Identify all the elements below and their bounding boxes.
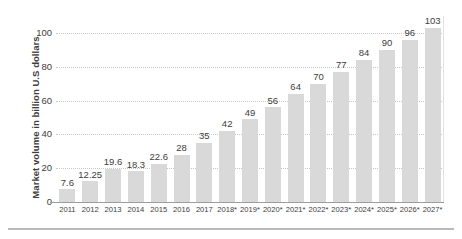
bar[interactable]: 64	[288, 94, 304, 202]
x-axis-label: 2022*	[307, 205, 330, 215]
bar-slot: 77	[330, 16, 353, 202]
x-axis-label: 2017	[193, 205, 216, 215]
bar-value-label: 19.6	[104, 157, 123, 167]
bar-slot: 28	[170, 16, 193, 202]
x-axis-label: 2012	[79, 205, 102, 215]
bar-value-label: 42	[222, 119, 233, 129]
bar-slot: 12.25	[79, 16, 102, 202]
bar[interactable]: 96	[402, 40, 418, 202]
bar-value-label: 18.3	[127, 160, 146, 170]
bar-slot: 7.6	[56, 16, 79, 202]
bar-slot: 64	[284, 16, 307, 202]
x-axis-label: 2019*	[239, 205, 262, 215]
x-axis-label: 2020*	[261, 205, 284, 215]
bar-value-label: 77	[336, 60, 347, 70]
bar-value-label: 64	[290, 82, 301, 92]
x-axis-label: 2027*	[421, 205, 444, 215]
x-axis-label: 2016	[170, 205, 193, 215]
y-axis-tick-0: 0	[18, 197, 52, 207]
bar-slot: 56	[261, 16, 284, 202]
bar-value-label: 35	[199, 131, 210, 141]
bar-value-label: 7.6	[61, 178, 74, 188]
bar-value-label: 103	[425, 16, 441, 26]
bar-slot: 84	[353, 16, 376, 202]
bar-slot: 103	[421, 16, 444, 202]
bar[interactable]: 70	[310, 84, 326, 202]
bar-slot: 49	[239, 16, 262, 202]
bar-value-label: 70	[313, 72, 324, 82]
bar-slot: 22.6	[147, 16, 170, 202]
y-axis-tick-60: 60	[18, 96, 52, 106]
bar-value-label: 84	[359, 48, 370, 58]
bar-value-label: 56	[268, 96, 279, 106]
bar[interactable]: 56	[265, 107, 281, 202]
footer-divider	[8, 228, 454, 230]
y-axis-tick-100: 100	[18, 28, 52, 38]
x-axis-label: 2024*	[353, 205, 376, 215]
bar[interactable]: 103	[425, 28, 441, 202]
bar[interactable]: 35	[196, 143, 212, 202]
bar[interactable]: 84	[356, 60, 372, 202]
y-axis-tick-20: 20	[18, 163, 52, 173]
bar[interactable]: 42	[219, 131, 235, 202]
bar-value-label: 96	[404, 28, 415, 38]
y-axis-tick-80: 80	[18, 62, 52, 72]
bar-slot: 42	[216, 16, 239, 202]
bar-value-label: 22.6	[149, 152, 168, 162]
bar-slot: 35	[193, 16, 216, 202]
x-axis-label: 2023*	[330, 205, 353, 215]
bar-slot: 96	[398, 16, 421, 202]
x-axis-label: 2021*	[284, 205, 307, 215]
x-axis-label: 2026*	[398, 205, 421, 215]
x-axis-baseline	[50, 202, 444, 203]
bar-value-label: 12.25	[78, 170, 102, 180]
x-axis-label: 2013	[102, 205, 125, 215]
bar-slot: 90	[376, 16, 399, 202]
bar-value-label: 90	[382, 38, 393, 48]
bar-slot: 19.6	[102, 16, 125, 202]
bar-chart: Market volume in billion U.S dollars 020…	[0, 0, 462, 239]
y-axis-tick-labels: 020406080100	[14, 16, 52, 202]
bar[interactable]: 28	[174, 155, 190, 202]
bar-value-label: 28	[176, 143, 187, 153]
bar[interactable]: 7.6	[59, 189, 75, 202]
x-axis-label: 2014	[124, 205, 147, 215]
bar-slot: 18.3	[124, 16, 147, 202]
x-axis-label: 2025*	[376, 205, 399, 215]
x-axis-label: 2018*	[216, 205, 239, 215]
x-axis-tick-labels: 20112012201320142015201620172018*2019*20…	[56, 205, 444, 219]
bar[interactable]: 90	[379, 50, 395, 202]
bar[interactable]: 18.3	[128, 171, 144, 202]
bar[interactable]: 22.6	[151, 164, 167, 202]
y-axis-tick-40: 40	[18, 129, 52, 139]
bars-container: 7.612.2519.618.322.628354249566470778490…	[56, 16, 444, 202]
bar-slot: 70	[307, 16, 330, 202]
bar[interactable]: 12.25	[82, 181, 98, 202]
bar[interactable]: 77	[333, 72, 349, 202]
bar[interactable]: 19.6	[105, 169, 121, 202]
bar-value-label: 49	[245, 108, 256, 118]
x-axis-label: 2011	[56, 205, 79, 215]
x-axis-label: 2015	[147, 205, 170, 215]
bar[interactable]: 49	[242, 119, 258, 202]
